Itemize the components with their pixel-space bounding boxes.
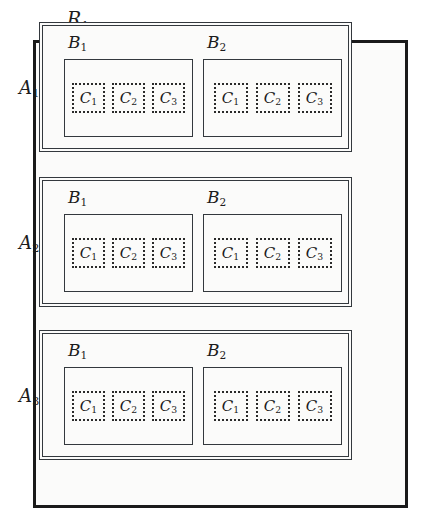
- group-container-a1: B1 C1 C2 C3 B2 C1 C2 C3: [39, 22, 352, 152]
- item-a3-b2-c1: C1: [214, 391, 248, 421]
- item-label-subscript: 1: [91, 251, 97, 262]
- subgroup-a2-b2: B2 C1 C2 C3: [203, 214, 342, 292]
- group-container-a2: B1 C1 C2 C3 B2 C1 C2 C3: [39, 177, 352, 307]
- subgroup-a3-b1: B1 C1 C2 C3: [64, 367, 193, 445]
- group-label-base: A: [19, 232, 32, 253]
- subgroup-a1-b1: B1 C1 C2 C3: [64, 59, 193, 137]
- subgroup-container-a2-b2: C1 C2 C3: [203, 214, 342, 292]
- subgroup-label-a3-b2: B2: [207, 342, 226, 359]
- item-a1-b1-c1: C1: [72, 83, 105, 113]
- item-label-base: C: [80, 89, 91, 107]
- item-label-a1-b2-c3: C3: [306, 91, 323, 106]
- item-label-base: C: [306, 89, 317, 107]
- item-row-a3-b2: C1 C2 C3: [204, 368, 341, 444]
- subgroup-label-base: B: [207, 32, 220, 52]
- item-label-subscript: 2: [131, 404, 137, 415]
- group-label-a3: A3: [19, 387, 39, 405]
- item-label-subscript: 3: [171, 96, 177, 107]
- item-a2-b1-c3: C3: [152, 238, 185, 268]
- item-label-a3-b1-c3: C3: [160, 399, 177, 414]
- subgroup-container-a2-b1: C1 C2 C3: [64, 214, 193, 292]
- item-label-a2-b2-c2: C2: [264, 246, 281, 261]
- subgroup-label-base: B: [68, 187, 81, 207]
- item-a1-b2-c2: C2: [256, 83, 290, 113]
- subgroup-label-subscript: 2: [220, 196, 227, 208]
- item-label-subscript: 3: [171, 251, 177, 262]
- subgroup-label-subscript: 1: [81, 41, 88, 53]
- item-label-base: C: [264, 244, 275, 262]
- group-container-a3: B1 C1 C2 C3 B2 C1 C2 C3: [39, 330, 352, 460]
- item-label-subscript: 3: [317, 96, 323, 107]
- item-label-a3-b1-c1: C1: [80, 399, 97, 414]
- group-container-a3-inner: B1 C1 C2 C3 B2 C1 C2 C3: [42, 333, 349, 457]
- group-container-a1-inner: B1 C1 C2 C3 B2 C1 C2 C3: [42, 25, 349, 149]
- subgroup-label-a3-b1: B1: [68, 342, 87, 359]
- nested-containment-diagram: R1 A1 B1 C1 C2 C3 B2 C1: [0, 0, 432, 525]
- subgroup-container-a1-b2: C1 C2 C3: [203, 59, 342, 137]
- subgroup-label-a2-b2: B2: [207, 189, 226, 206]
- item-label-base: C: [120, 244, 131, 262]
- group-label-a1: A1: [19, 79, 39, 97]
- item-label-base: C: [264, 397, 275, 415]
- subgroup-label-subscript: 1: [81, 196, 88, 208]
- subgroup-label-subscript: 2: [220, 349, 227, 361]
- item-a2-b2-c2: C2: [256, 238, 290, 268]
- item-label-a2-b1-c3: C3: [160, 246, 177, 261]
- item-label-subscript: 2: [131, 96, 137, 107]
- item-label-base: C: [306, 244, 317, 262]
- subgroup-container-a3-b2: C1 C2 C3: [203, 367, 342, 445]
- item-label-subscript: 1: [91, 96, 97, 107]
- item-label-subscript: 1: [233, 96, 239, 107]
- subgroup-a1-b2: B2 C1 C2 C3: [203, 59, 342, 137]
- subgroup-label-a1-b1: B1: [68, 34, 87, 51]
- item-label-base: C: [160, 89, 171, 107]
- item-row-a3-b1: C1 C2 C3: [65, 368, 192, 444]
- item-a1-b1-c2: C2: [112, 83, 145, 113]
- item-a1-b2-c1: C1: [214, 83, 248, 113]
- subgroup-label-subscript: 2: [220, 41, 227, 53]
- item-label-base: C: [222, 397, 233, 415]
- item-label-a2-b1-c1: C1: [80, 246, 97, 261]
- subgroup-label-a2-b1: B1: [68, 189, 87, 206]
- subgroup-container-a3-b1: C1 C2 C3: [64, 367, 193, 445]
- subgroup-label-a1-b2: B2: [207, 34, 226, 51]
- item-label-base: C: [306, 397, 317, 415]
- subgroup-container-a1-b1: C1 C2 C3: [64, 59, 193, 137]
- item-a3-b2-c3: C3: [298, 391, 332, 421]
- subgroup-label-base: B: [207, 187, 220, 207]
- item-a3-b1-c1: C1: [72, 391, 105, 421]
- item-label-a2-b1-c2: C2: [120, 246, 137, 261]
- item-row-a1-b2: C1 C2 C3: [204, 60, 341, 136]
- item-label-a3-b2-c3: C3: [306, 399, 323, 414]
- item-row-a2-b2: C1 C2 C3: [204, 215, 341, 291]
- subgroup-label-base: B: [68, 340, 81, 360]
- item-label-a1-b2-c2: C2: [264, 91, 281, 106]
- item-a3-b1-c2: C2: [112, 391, 145, 421]
- item-label-subscript: 3: [317, 251, 323, 262]
- group-label-base: A: [19, 385, 32, 406]
- item-a2-b2-c1: C1: [214, 238, 248, 268]
- item-label-subscript: 2: [275, 404, 281, 415]
- item-label-base: C: [222, 89, 233, 107]
- subgroup-a2-b1: B1 C1 C2 C3: [64, 214, 193, 292]
- item-label-subscript: 2: [275, 96, 281, 107]
- item-label-a3-b2-c1: C1: [222, 399, 239, 414]
- item-label-subscript: 3: [171, 404, 177, 415]
- subgroup-label-base: B: [207, 340, 220, 360]
- item-label-subscript: 2: [131, 251, 137, 262]
- item-a3-b2-c2: C2: [256, 391, 290, 421]
- item-label-base: C: [80, 397, 91, 415]
- item-label-base: C: [80, 244, 91, 262]
- item-label-a3-b1-c2: C2: [120, 399, 137, 414]
- item-a2-b1-c2: C2: [112, 238, 145, 268]
- item-label-a3-b2-c2: C2: [264, 399, 281, 414]
- item-label-subscript: 1: [233, 404, 239, 415]
- item-label-subscript: 3: [317, 404, 323, 415]
- item-label-subscript: 1: [91, 404, 97, 415]
- item-label-base: C: [120, 397, 131, 415]
- item-a1-b2-c3: C3: [298, 83, 332, 113]
- item-label-a1-b1-c1: C1: [80, 91, 97, 106]
- group-label-a2: A2: [19, 234, 39, 252]
- item-label-subscript: 1: [233, 251, 239, 262]
- subgroup-a3-b2: B2 C1 C2 C3: [203, 367, 342, 445]
